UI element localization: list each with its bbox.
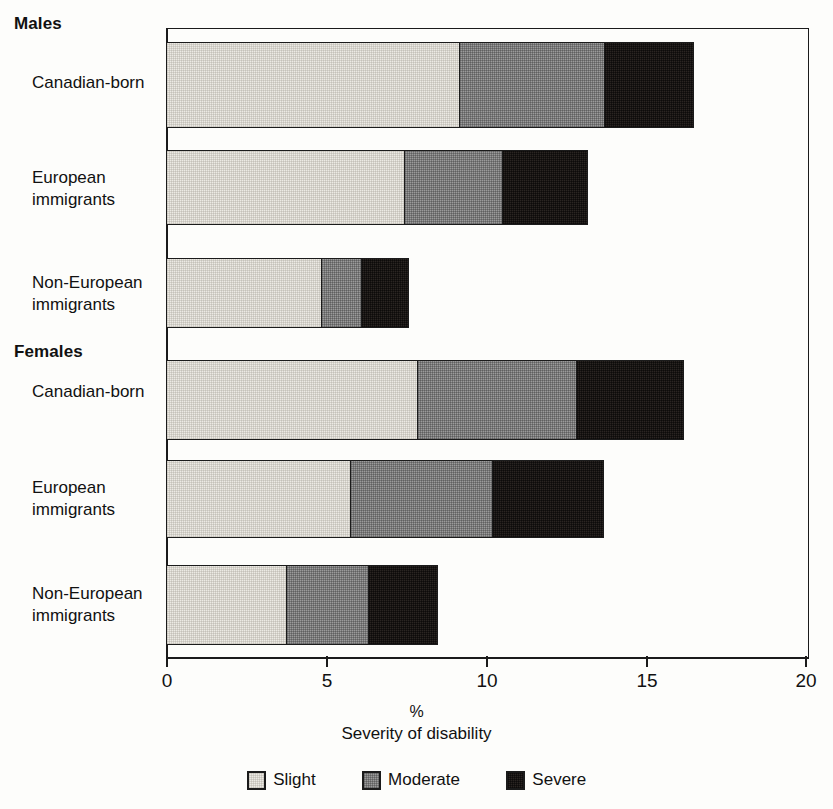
bar-segment-moderate <box>404 150 503 225</box>
bar-segment-moderate <box>321 258 363 328</box>
x-axis-unit-label: % <box>0 703 833 721</box>
bar-females-non-european-immigrants <box>166 565 436 645</box>
x-axis-title: Severity of disability <box>0 724 833 744</box>
x-axis-tick-15 <box>646 656 648 667</box>
legend-label-moderate: Moderate <box>388 770 460 790</box>
x-axis-tick-label-20: 20 <box>776 670 833 692</box>
x-axis-tick-20 <box>805 656 807 667</box>
x-axis-tick-10 <box>486 656 488 667</box>
bar-males-non-european-immigrants <box>166 258 408 328</box>
bar-segment-slight <box>166 42 460 128</box>
category-label-females-european-immigrants: European immigrants <box>32 477 160 521</box>
bar-females-canadian-born <box>166 360 683 440</box>
legend-item-severe: Severe <box>506 770 586 790</box>
bar-segment-slight <box>166 460 352 538</box>
legend-item-slight: Slight <box>247 770 316 790</box>
legend-swatch-moderate-icon <box>362 771 381 790</box>
legend-item-moderate: Moderate <box>362 770 460 790</box>
bar-segment-severe <box>502 150 588 225</box>
category-label-females-non-european-immigrants: Non-European immigrants <box>32 583 160 627</box>
category-label-males-non-european-immigrants: Non-European immigrants <box>32 272 160 316</box>
legend-label-slight: Slight <box>273 770 316 790</box>
bar-segment-severe <box>492 460 604 538</box>
bar-segment-severe <box>361 258 409 328</box>
legend-swatch-severe-icon <box>506 771 525 790</box>
bar-females-european-immigrants <box>166 460 603 538</box>
bar-segment-slight <box>166 565 288 645</box>
disability-severity-chart: Males Females Canadian-born European imm… <box>0 0 833 809</box>
bar-segment-slight <box>166 150 406 225</box>
bar-segment-moderate <box>417 360 577 440</box>
legend-swatch-slight-icon <box>247 771 266 790</box>
bar-segment-moderate <box>286 565 369 645</box>
x-axis-tick-0 <box>166 656 168 667</box>
group-heading-males: Males <box>14 14 62 34</box>
bar-segment-severe <box>368 565 438 645</box>
bar-segment-moderate <box>350 460 494 538</box>
bar-segment-slight <box>166 360 419 440</box>
legend: Slight Moderate Severe <box>0 770 833 790</box>
legend-label-severe: Severe <box>532 770 586 790</box>
bar-segment-severe <box>604 42 694 128</box>
x-axis-tick-label-15: 15 <box>617 670 677 692</box>
bar-segment-slight <box>166 258 323 328</box>
x-axis-tick-label-5: 5 <box>297 670 357 692</box>
category-label-males-european-immigrants: European immigrants <box>32 167 160 211</box>
bar-segment-moderate <box>459 42 606 128</box>
x-axis-tick-label-10: 10 <box>457 670 517 692</box>
group-heading-females: Females <box>14 342 83 362</box>
category-label-males-canadian-born: Canadian-born <box>32 72 160 94</box>
x-axis-tick-5 <box>326 656 328 667</box>
bar-segment-severe <box>576 360 685 440</box>
bar-males-european-immigrants <box>166 150 587 225</box>
bar-males-canadian-born <box>166 42 692 128</box>
x-axis-tick-label-0: 0 <box>137 670 197 692</box>
category-label-females-canadian-born: Canadian-born <box>32 381 160 403</box>
